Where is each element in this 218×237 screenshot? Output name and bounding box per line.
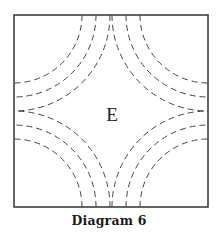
dashed-arc-bottom-right (126, 125, 208, 207)
dashed-arc-bottom-left (14, 125, 96, 207)
region-label-e: E (100, 104, 124, 126)
diagram-caption: Diagram 6 (0, 213, 218, 228)
dashed-arc-top-left (14, 15, 96, 97)
dashed-arc-top-right (126, 15, 208, 97)
